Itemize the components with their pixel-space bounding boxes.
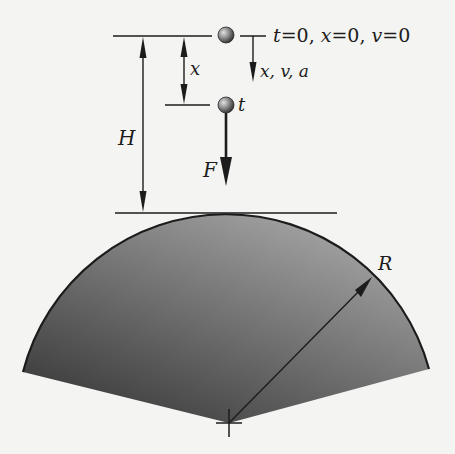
ball-initial-icon (218, 27, 234, 43)
height-label: H (117, 126, 136, 150)
displacement-arrow (181, 37, 188, 104)
height-arrow (140, 37, 147, 212)
force-arrow (220, 113, 232, 186)
ball-at-t-icon (218, 97, 234, 113)
initial-conditions-label: t=0, x=0, v=0 (273, 24, 410, 46)
radius-label: R (377, 252, 392, 274)
sphere-sector (23, 214, 429, 423)
diagram-canvas: R H x x, v, a (0, 0, 455, 454)
positive-direction-arrow (250, 36, 257, 82)
force-label: F (202, 158, 218, 182)
displacement-label: x (190, 58, 200, 79)
physics-diagram: R H x x, v, a (0, 0, 455, 454)
time-label: t (238, 94, 246, 115)
direction-label: x, v, a (260, 61, 309, 81)
